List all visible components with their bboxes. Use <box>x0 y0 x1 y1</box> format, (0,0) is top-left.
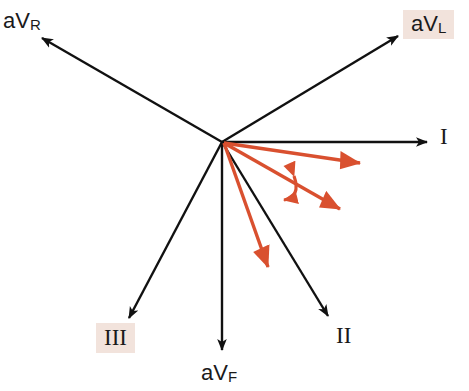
vector-canvas <box>0 0 469 391</box>
lead-label-aVF-subscript: F <box>228 368 237 385</box>
lead-axis-III <box>129 142 222 318</box>
lead-label-aVL-subscript: L <box>438 19 446 36</box>
lead-label-aVR-text: aV <box>3 8 30 33</box>
lead-label-III: III <box>96 323 135 353</box>
qrs-vectors-group <box>224 143 360 267</box>
lead-label-aVR: aVR <box>3 10 41 32</box>
lead-label-I: I <box>440 125 448 148</box>
lead-label-aVL: aVL <box>403 10 454 39</box>
lead-label-II: II <box>336 324 351 347</box>
lead-label-aVR-subscript: R <box>30 16 41 33</box>
ecg-axis-diagram: aVR aVL I II aVF III <box>0 0 469 391</box>
lead-label-aVL-text: aV <box>411 11 438 36</box>
lead-label-aVF-text: aV <box>201 360 228 385</box>
lead-axes-group <box>42 36 427 350</box>
lead-axis-aVL <box>222 36 398 142</box>
lead-axis-aVR <box>42 38 222 142</box>
lead-label-aVF: aVF <box>201 362 237 384</box>
lead-axis-II <box>222 142 328 316</box>
